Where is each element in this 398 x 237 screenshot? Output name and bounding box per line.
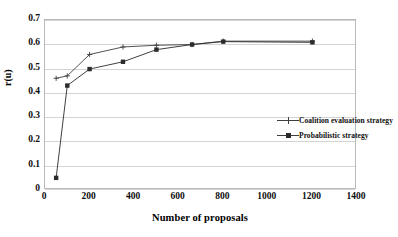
legend-label-probabilistic-strategy: Probabilistic strategy bbox=[299, 131, 369, 140]
y-tick-label: 0.7 bbox=[0, 14, 40, 24]
y-tick-label: 0.6 bbox=[0, 38, 40, 48]
x-tick-label: 1400 bbox=[336, 192, 376, 202]
plot-area: Coalition evaluation strategy Probabilis… bbox=[44, 19, 356, 189]
x-tick-label: 0 bbox=[24, 192, 64, 202]
data-point-marker bbox=[65, 83, 69, 87]
y-tick-label: 0.2 bbox=[0, 135, 40, 145]
x-tick-label: 600 bbox=[158, 192, 198, 202]
y-tick-label: 0.1 bbox=[0, 160, 40, 170]
series-line bbox=[56, 42, 312, 178]
x-tick-label: 1200 bbox=[291, 192, 331, 202]
series-2 bbox=[54, 39, 315, 180]
legend-plus-marker-icon bbox=[277, 115, 299, 126]
x-tick-label: 400 bbox=[113, 192, 153, 202]
data-point-marker bbox=[190, 42, 194, 46]
x-tick-label: 1000 bbox=[247, 192, 287, 202]
y-tick-label: 0.5 bbox=[0, 63, 40, 73]
series-layer bbox=[45, 20, 357, 190]
series-line bbox=[56, 41, 312, 78]
legend-square-marker-icon bbox=[277, 130, 299, 141]
chart-legend: Coalition evaluation strategy Probabilis… bbox=[277, 114, 398, 144]
data-point-marker bbox=[87, 67, 91, 71]
x-tick-label: 200 bbox=[69, 192, 109, 202]
y-tick-label: 0.3 bbox=[0, 111, 40, 121]
legend-label-coalition-evaluation-strategy: Coalition evaluation strategy bbox=[299, 116, 393, 125]
data-point-marker bbox=[154, 47, 158, 51]
x-axis-title: Number of proposals bbox=[44, 212, 356, 223]
x-tick-label: 800 bbox=[202, 192, 242, 202]
legend-item-coalition-evaluation-strategy: Coalition evaluation strategy bbox=[277, 114, 398, 127]
data-point-marker bbox=[54, 176, 58, 180]
y-tick-label: 0.4 bbox=[0, 87, 40, 97]
data-point-marker bbox=[310, 40, 314, 44]
data-point-marker bbox=[221, 39, 225, 43]
data-point-marker bbox=[121, 60, 125, 64]
series-1 bbox=[54, 39, 315, 81]
legend-item-probabilistic-strategy: Probabilistic strategy bbox=[277, 129, 398, 142]
